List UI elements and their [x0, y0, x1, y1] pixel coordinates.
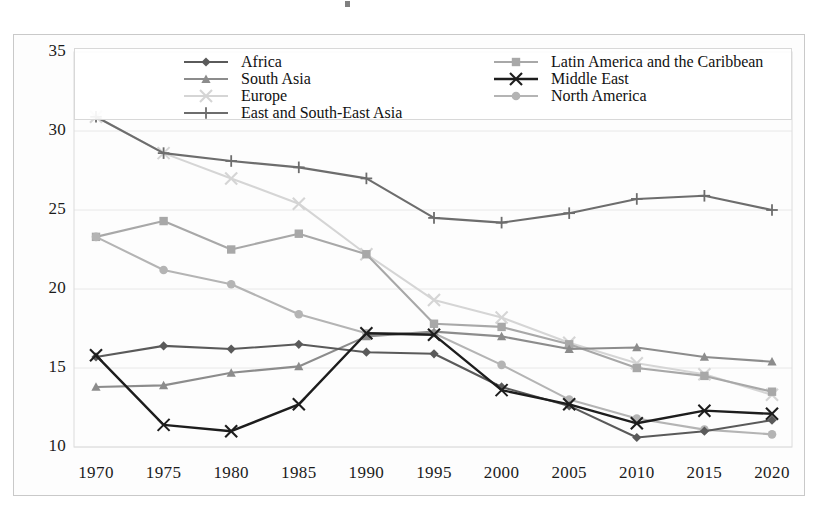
legend-label: South Asia — [241, 71, 311, 87]
data-point-marker-plus — [699, 190, 711, 202]
data-point-marker-diamond — [159, 341, 168, 350]
chart-legend: AfricaSouth AsiaEuropeEast and South-Eas… — [74, 48, 792, 120]
legend-column-left: AfricaSouth AsiaEuropeEast and South-Eas… — [183, 54, 402, 122]
x-tick-label: 1970 — [61, 463, 131, 483]
data-point-marker-square — [227, 245, 235, 253]
data-point-marker-diamond — [294, 340, 303, 349]
y-tick-label: 20 — [26, 278, 66, 298]
data-point-marker-diamond — [227, 344, 236, 353]
x-tick-label: 2000 — [467, 463, 537, 483]
legend-swatch-diamond-icon — [183, 55, 229, 69]
series-line — [96, 117, 772, 223]
data-point-marker-square — [633, 364, 641, 372]
data-point-marker-circle — [92, 233, 101, 242]
data-point-marker-square — [497, 323, 505, 331]
legend-item: Africa — [183, 54, 402, 70]
x-tick-label: 1990 — [331, 463, 401, 483]
data-point-marker-circle — [295, 310, 304, 319]
data-point-marker-square — [768, 388, 776, 396]
x-tick-label: 2020 — [737, 463, 807, 483]
data-point-marker-diamond — [201, 57, 210, 66]
legend-label: Middle East — [551, 71, 629, 87]
legend-label: East and South-East Asia — [241, 105, 402, 121]
data-point-marker-plus — [563, 207, 575, 219]
legend-item: North America — [493, 88, 763, 104]
y-tick-label: 15 — [26, 357, 66, 377]
legend-swatch-triangle-icon — [183, 72, 229, 86]
data-point-marker-plus — [631, 193, 643, 205]
data-point-marker-plus — [496, 217, 508, 229]
series-east-and-south-east-asia — [90, 111, 778, 228]
data-point-marker-circle — [768, 430, 777, 439]
data-point-marker-diamond — [632, 433, 641, 442]
legend-item: Europe — [183, 88, 402, 104]
legend-label: Latin America and the Caribbean — [551, 54, 763, 70]
legend-swatch-square-icon — [493, 55, 539, 69]
y-tick-label: 35 — [26, 41, 66, 61]
legend-swatch-circle-icon — [493, 89, 539, 103]
y-tick-label: 10 — [26, 436, 66, 456]
x-tick-label: 2005 — [534, 463, 604, 483]
legend-item: South Asia — [183, 71, 402, 87]
data-point-marker-circle — [512, 92, 521, 101]
data-point-marker-plus — [766, 204, 778, 216]
x-tick-label: 1985 — [264, 463, 334, 483]
scan-artifact-dot — [345, 1, 350, 7]
legend-label: Europe — [241, 88, 287, 104]
x-tick-label: 2015 — [669, 463, 739, 483]
legend-label: Africa — [241, 54, 282, 70]
data-point-marker-cross — [293, 198, 305, 210]
data-point-marker-plus — [428, 212, 440, 224]
x-tick-label: 1980 — [196, 463, 266, 483]
data-point-marker-circle — [159, 266, 168, 275]
legend-item: Latin America and the Caribbean — [493, 54, 763, 70]
data-point-marker-diamond — [362, 348, 371, 357]
data-point-marker-plus — [293, 162, 305, 174]
data-point-marker-cross — [225, 172, 237, 184]
x-tick-label: 1995 — [399, 463, 469, 483]
data-point-marker-circle — [497, 361, 506, 370]
data-point-marker-square — [159, 217, 167, 225]
legend-label: North America — [551, 88, 647, 104]
legend-item: Middle East — [493, 71, 763, 87]
data-point-marker-plus — [361, 173, 373, 185]
x-tick-label: 2010 — [602, 463, 672, 483]
y-tick-label: 25 — [26, 199, 66, 219]
data-point-marker-circle — [227, 280, 236, 289]
y-tick-label: 30 — [26, 120, 66, 140]
legend-item: East and South-East Asia — [183, 105, 402, 121]
legend-swatch-plus-icon — [183, 106, 229, 120]
x-tick-label: 1975 — [129, 463, 199, 483]
data-point-marker-square — [362, 250, 370, 258]
data-point-marker-plus — [225, 155, 237, 167]
data-series-group — [90, 111, 778, 442]
data-point-marker-square — [295, 230, 303, 238]
series-middle-east — [90, 327, 778, 437]
legend-swatch-x-icon — [493, 72, 539, 86]
data-point-marker-x — [293, 398, 305, 410]
data-point-marker-plus — [200, 107, 212, 119]
data-point-marker-square — [512, 58, 520, 66]
series-line — [96, 221, 772, 392]
chart-figure: 353025201510 197019751980198519901995200… — [0, 0, 818, 522]
data-point-marker-square — [700, 372, 708, 380]
legend-swatch-cross-icon — [183, 89, 229, 103]
data-point-marker-square — [430, 320, 438, 328]
legend-column-right: Latin America and the CaribbeanMiddle Ea… — [493, 54, 763, 105]
series-line — [96, 332, 772, 387]
data-point-marker-diamond — [429, 349, 438, 358]
